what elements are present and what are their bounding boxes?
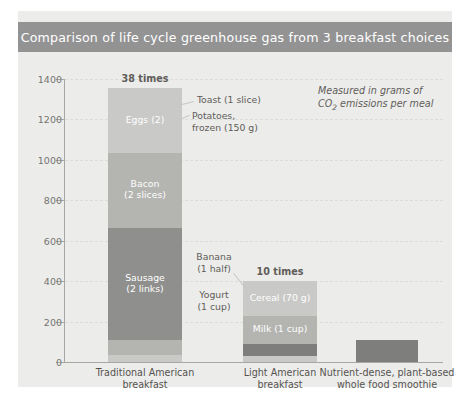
- segment-label: Bacon(2 slices): [124, 179, 166, 200]
- bar-3[interactable]: [356, 340, 418, 362]
- x-category-label-2: Light Americanbreakfast: [244, 367, 317, 391]
- bar-segment[interactable]: Cereal (70 g): [243, 281, 317, 315]
- bar-segment[interactable]: Eggs (2): [108, 88, 182, 153]
- chart-figure: Comparison of life cycle greenhouse gas …: [18, 11, 452, 387]
- plot-area: 0200400600800100012001400 Eggs (2)Bacon(…: [18, 11, 452, 387]
- callout-potatoes-leader-line: [182, 115, 189, 119]
- callout-banana: Banana(1 half): [196, 251, 231, 274]
- callout-yogurt: Yogurt(1 cup): [197, 289, 230, 312]
- callout-toast: Toast (1 slice): [197, 94, 261, 106]
- y-tick-label-200: 200: [16, 316, 62, 327]
- bar-segment[interactable]: Bacon(2 slices): [108, 153, 182, 228]
- bar-segment[interactable]: [108, 340, 182, 355]
- segment-label: Milk (1 cup): [253, 324, 308, 335]
- segment-label: Cereal (70 g): [250, 293, 311, 304]
- bar-total-multiplier-label: 10 times: [257, 266, 304, 277]
- y-tick-label-1000: 1000: [16, 154, 62, 165]
- bar-segment[interactable]: [243, 356, 317, 362]
- bar-segment[interactable]: [356, 340, 418, 362]
- x-category-label-1: Traditional Americanbreakfast: [96, 367, 195, 391]
- bar-segment[interactable]: Sausage(2 links): [108, 228, 182, 340]
- bar-total-multiplier-label: 38 times: [122, 73, 169, 84]
- units-annotation: Measured in grams of CO2 emissions per m…: [318, 85, 433, 113]
- y-tick-label-1200: 1200: [16, 114, 62, 125]
- y-tick-label-400: 400: [16, 276, 62, 287]
- x-category-label-3: Nutrient-dense, plant-basedwhole food sm…: [320, 367, 455, 391]
- annotation-line-2: CO2 emissions per meal: [318, 98, 433, 113]
- bar-2[interactable]: Cereal (70 g)Milk (1 cup): [243, 281, 317, 362]
- bar-segment[interactable]: Milk (1 cup): [243, 316, 317, 344]
- y-tick-label-0: 0: [16, 357, 62, 368]
- cropped-footer-text: [22, 392, 442, 401]
- bar-segment[interactable]: [243, 344, 317, 356]
- y-tick-label-1400: 1400: [16, 74, 62, 85]
- x-axis-line: [64, 362, 443, 363]
- annotation-line-1: Measured in grams of: [318, 85, 433, 98]
- bar-segment[interactable]: [108, 355, 182, 362]
- y-tick-label-800: 800: [16, 195, 62, 206]
- annotation-suffix: emissions per meal: [337, 98, 433, 109]
- bar-1[interactable]: Eggs (2)Bacon(2 slices)Sausage(2 links): [108, 88, 182, 362]
- segment-label: Eggs (2): [126, 115, 165, 126]
- callout-toast-leader-line: [182, 101, 194, 105]
- callout-potatoes: Potatoes,frozen (150 g): [192, 110, 258, 133]
- y-axis-line: [64, 79, 65, 362]
- annotation-co2: CO: [318, 98, 332, 109]
- segment-label: Sausage(2 links): [125, 273, 165, 294]
- y-tick-label-600: 600: [16, 235, 62, 246]
